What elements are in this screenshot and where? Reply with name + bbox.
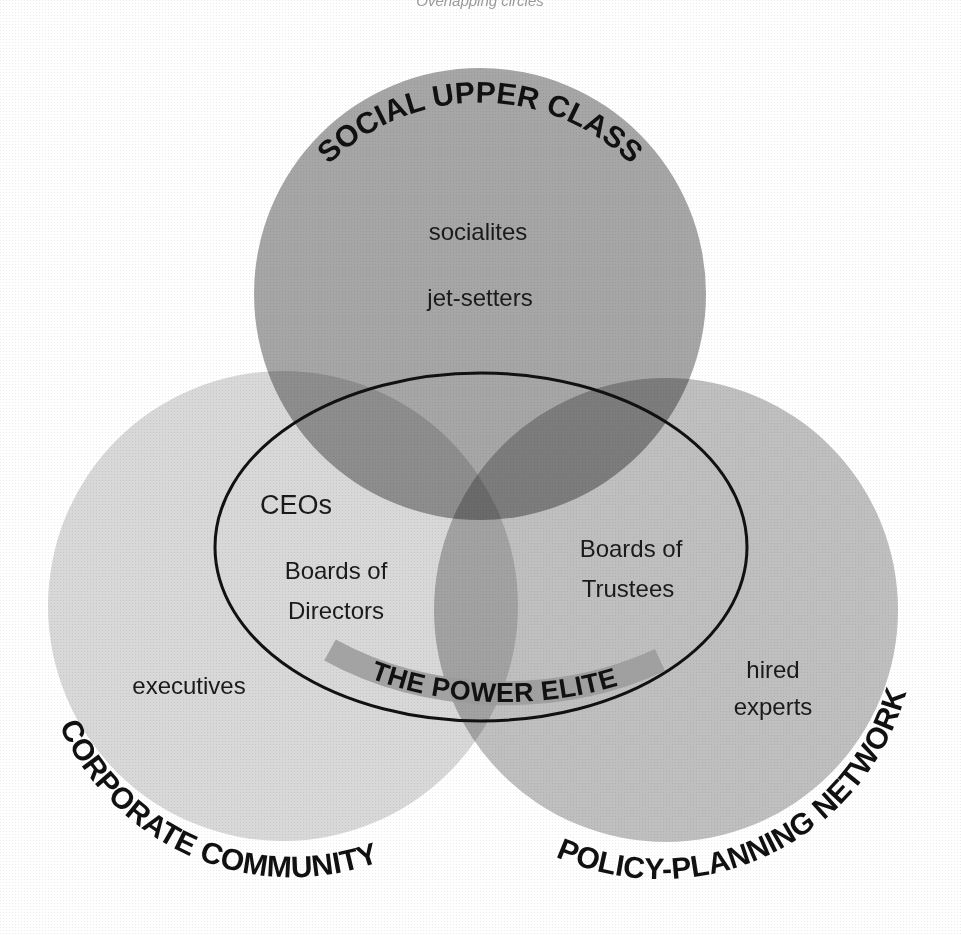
member-boards-of-trustees-line2: Trustees [582, 575, 674, 602]
member-hired-experts-line2: experts [734, 693, 813, 720]
member-boards-of-directors-line1: Boards of [285, 557, 388, 584]
member-boards-of-trustees-line1: Boards of [580, 535, 683, 562]
member-ceos: CEOs [260, 490, 332, 520]
member-socialites: socialites [429, 218, 528, 245]
clipped-caption: Overlapping circles [416, 0, 544, 9]
member-boards-of-directors-line2: Directors [288, 597, 384, 624]
member-hired-experts-line1: hired [746, 656, 799, 683]
member-executives: executives [132, 672, 245, 699]
member-jet-setters: jet-setters [426, 284, 532, 311]
power-elite-venn-diagram: Overlapping circles SOCIAL UPPER CLASS C… [0, 0, 961, 935]
